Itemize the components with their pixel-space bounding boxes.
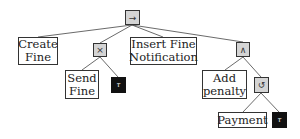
edge-seq-xor <box>100 25 132 43</box>
edge-and-add-penalty <box>225 57 243 70</box>
activity-label: Payment <box>217 114 267 127</box>
activity-create-fine: Create Fine <box>18 37 58 65</box>
xor-cross-icon: × <box>96 45 104 55</box>
activity-label: Add penalty <box>203 72 246 98</box>
edge-xor-tau <box>100 57 118 77</box>
activity-insert-fine-notification: Insert Fine Notification <box>130 37 197 65</box>
silent-tau-node: τ <box>111 77 126 93</box>
activity-add-penalty: Add penalty <box>202 70 247 99</box>
sequence-arrow-icon: → <box>129 13 137 23</box>
edge-seq-insert-fine-notification <box>132 25 163 37</box>
loop-circular-arrow-icon: ↺ <box>258 80 266 90</box>
activity-label: Insert Fine Notification <box>129 38 198 64</box>
activity-label: Send Fine <box>67 72 96 98</box>
edge-seq-create-fine <box>38 25 132 37</box>
process-tree-diagram: → Create Fine × Insert Fine Notification… <box>0 0 300 139</box>
and-operator-node: ∧ <box>236 42 250 57</box>
tau-icon: τ <box>117 81 121 89</box>
xor-operator-node: × <box>93 43 107 57</box>
loop-operator-node: ↺ <box>254 77 269 93</box>
activity-payment: Payment <box>218 112 267 128</box>
sequence-operator-node: → <box>125 10 140 25</box>
activity-label: Create Fine <box>18 38 57 64</box>
and-wedge-icon: ∧ <box>240 45 247 55</box>
activity-send-fine: Send Fine <box>65 70 99 99</box>
silent-tau-node: τ <box>272 112 287 128</box>
edge-loop-tau <box>261 93 279 112</box>
tau-icon: τ <box>278 116 282 124</box>
edge-xor-send-fine <box>82 57 100 70</box>
